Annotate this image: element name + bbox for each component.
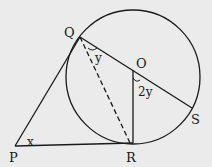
label-P: P: [9, 150, 18, 165]
angle-label-x: x: [27, 135, 34, 149]
angle-arc-Q: [88, 48, 97, 50]
angle-arc-O: [133, 78, 140, 81]
diameter-QS: [80, 37, 192, 108]
label-Q: Q: [64, 25, 75, 40]
label-S: S: [191, 112, 200, 127]
tangent-PQ: [15, 37, 80, 146]
angle-label-2y: 2y: [138, 85, 153, 99]
geometry-diagram: Q O S R P x y 2y: [0, 0, 212, 167]
angle-label-y: y: [94, 51, 102, 65]
label-O: O: [136, 56, 147, 71]
label-R: R: [126, 150, 137, 165]
